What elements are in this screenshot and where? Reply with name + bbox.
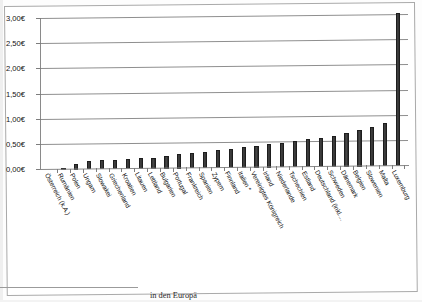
x-axis-category-labels: Österreich (k.A.)RumänienPolenUngarnSlow… [0, 0, 422, 302]
x-axis-category-label: Malta [378, 169, 392, 186]
x-axis-category-label: Luxemburg [391, 169, 412, 201]
figure-caption-text: in den Europä [150, 292, 422, 300]
scanned-page: 0,00€0,50€1,00€1,50€2,00€2,50€3,00€ Öste… [0, 0, 422, 302]
bar-chart: 0,00€0,50€1,00€1,50€2,00€2,50€3,00€ Öste… [0, 0, 422, 302]
page-rule [0, 287, 138, 288]
